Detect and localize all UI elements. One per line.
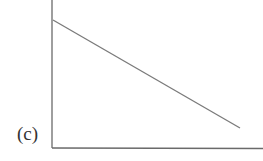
diagram-plot <box>0 0 263 161</box>
panel-label: (c) <box>17 124 38 144</box>
decreasing-line <box>53 20 240 128</box>
x-axis <box>52 148 263 149</box>
